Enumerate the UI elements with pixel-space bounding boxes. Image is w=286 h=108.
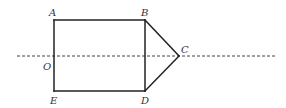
geometry-diagram: ABCDEO <box>0 0 286 108</box>
point-label-a: A <box>48 7 56 18</box>
point-label-d: D <box>140 95 149 106</box>
point-label-c: C <box>181 44 189 55</box>
segment-bc <box>145 20 179 56</box>
segment-cd <box>145 56 179 91</box>
point-label-e: E <box>49 95 58 106</box>
point-label-b: B <box>140 7 148 18</box>
point-label-o: O <box>43 61 51 72</box>
